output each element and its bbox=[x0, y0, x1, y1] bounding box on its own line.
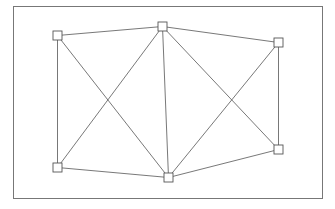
edge-bottom-right-bottom-center bbox=[169, 150, 279, 178]
edge-top-left-bottom-center bbox=[58, 36, 169, 178]
node-bottom-center bbox=[164, 173, 173, 182]
edge-top-center-bottom-right bbox=[163, 27, 279, 150]
graph-diagram bbox=[0, 0, 335, 209]
edge-bottom-left-top-center bbox=[58, 27, 163, 168]
edge-layer bbox=[58, 27, 279, 178]
node-top-center bbox=[158, 22, 167, 31]
node-bottom-right bbox=[274, 145, 283, 154]
edge-top-center-bottom-center bbox=[163, 27, 169, 178]
node-bottom-left bbox=[53, 163, 62, 172]
edge-bottom-center-bottom-left bbox=[58, 168, 169, 178]
edge-top-center-top-right bbox=[163, 27, 279, 43]
edge-bottom-center-top-right bbox=[169, 43, 279, 178]
edge-top-left-top-center bbox=[58, 27, 163, 36]
node-top-left bbox=[53, 31, 62, 40]
node-top-right bbox=[274, 38, 283, 47]
